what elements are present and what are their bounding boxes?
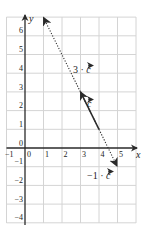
x-axis-label: x bbox=[135, 149, 141, 160]
svg-text:−1: −1 bbox=[14, 157, 23, 166]
svg-text:1: 1 bbox=[45, 150, 49, 159]
vector-label-c: c bbox=[87, 98, 93, 109]
svg-text:−1: −1 bbox=[5, 150, 14, 159]
svg-text:5: 5 bbox=[19, 45, 23, 54]
svg-text:6: 6 bbox=[19, 26, 23, 35]
svg-text:0: 0 bbox=[19, 139, 23, 148]
svg-text:4: 4 bbox=[101, 150, 105, 159]
svg-text:0: 0 bbox=[27, 150, 31, 159]
y-axis-label: y bbox=[28, 13, 34, 24]
svg-text:−2: −2 bbox=[14, 176, 23, 185]
vector-label-3c: 3 · c bbox=[73, 64, 93, 75]
grid bbox=[7, 17, 137, 223]
coordinate-plane: x y −1 0 1 2 3 4 5 6 5 4 3 2 1 0 −1 −2 −… bbox=[0, 0, 145, 235]
svg-text:4: 4 bbox=[19, 64, 23, 73]
svg-text:−1 · c: −1 · c bbox=[87, 170, 111, 181]
svg-text:3: 3 bbox=[82, 150, 86, 159]
svg-text:5: 5 bbox=[119, 150, 123, 159]
vector-diagram: x y −1 0 1 2 3 4 5 6 5 4 3 2 1 0 −1 −2 −… bbox=[0, 0, 145, 235]
y-tick-labels: 6 5 4 3 2 1 0 −1 −2 −3 −4 bbox=[14, 26, 23, 222]
svg-text:−4: −4 bbox=[14, 213, 23, 222]
svg-text:3: 3 bbox=[19, 83, 23, 92]
svg-text:2: 2 bbox=[19, 101, 23, 110]
vector-label-neg-c: −1 · c bbox=[87, 170, 113, 181]
svg-text:−3: −3 bbox=[14, 195, 23, 204]
svg-text:2: 2 bbox=[64, 150, 68, 159]
svg-text:1: 1 bbox=[19, 120, 23, 129]
